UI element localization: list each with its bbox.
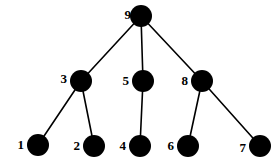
node-label-2: 2: [74, 139, 81, 152]
graph-node-7: [249, 135, 271, 157]
node-label-7: 7: [240, 141, 247, 154]
node-label-3: 3: [61, 72, 68, 85]
node-label-6: 6: [168, 139, 175, 152]
graph-node-8: [191, 70, 213, 92]
graph-node-3: [70, 70, 92, 92]
graph-edge-3-1: [38, 81, 81, 145]
graph-node-1: [27, 134, 49, 156]
graph-node-6: [177, 135, 199, 157]
node-label-9: 9: [125, 8, 132, 21]
tree-diagram: 935812467: [0, 0, 278, 162]
node-label-4: 4: [120, 139, 127, 152]
graph-edge-9-3: [81, 16, 141, 81]
graph-node-4: [129, 135, 151, 157]
graph-edge-9-8: [141, 16, 202, 81]
graph-node-5: [132, 70, 154, 92]
node-label-5: 5: [123, 74, 130, 87]
graph-node-2: [83, 135, 105, 157]
graph-edge-8-7: [202, 81, 260, 146]
node-label-1: 1: [18, 138, 25, 151]
graph-canvas: [0, 0, 278, 162]
node-label-8: 8: [182, 74, 189, 87]
graph-node-9: [130, 5, 152, 27]
